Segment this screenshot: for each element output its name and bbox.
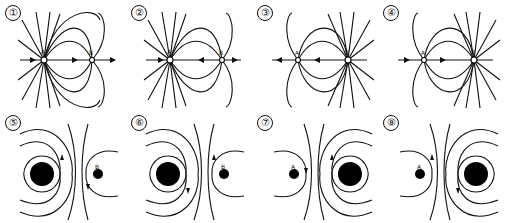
panel-1: ① AB [0,0,126,110]
panel-4: ④ AB [378,0,504,110]
field-line-figure: ① AB [0,0,507,223]
svg-text:B: B [89,49,93,56]
field-lines-diagram: AB [126,0,252,110]
equipotential-diagram: AB [126,112,252,222]
equipotential-diagram: AB [252,112,378,222]
field-lines-diagram: AB [252,0,378,110]
equipotential-diagram: AB [0,112,126,222]
svg-text:B: B [347,162,351,169]
svg-text:A: A [417,163,422,170]
svg-text:B: B [95,163,99,170]
panel-2: ② AB [126,0,252,110]
field-lines-diagram: AB [378,0,504,110]
svg-text:B: B [345,48,349,55]
svg-text:B: B [221,163,225,170]
svg-text:B: B [471,48,475,55]
panel-7: ⑦ AB [252,112,378,222]
equipotential-diagram: AB [378,112,504,222]
panel-3: ③ AB [252,0,378,110]
svg-text:A: A [291,163,296,170]
panel-6: ⑥ AB [126,112,252,222]
panel-8: ⑧ AB [378,112,504,222]
field-lines-diagram: AB [0,0,126,110]
panel-5: ⑤ AB [0,112,126,222]
svg-text:B: B [473,162,477,169]
svg-text:B: B [219,49,223,56]
